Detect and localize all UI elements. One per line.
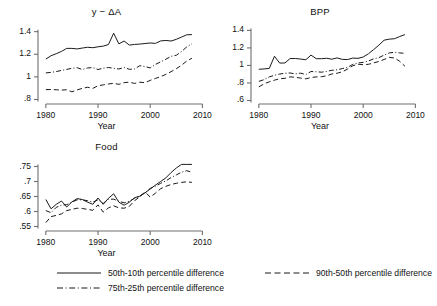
- y-tick-label: .7: [0, 176, 31, 186]
- legend-key-solid-icon: [56, 268, 102, 278]
- chart-panel-y-minus-delta-a: y − ΔA .811.21.41980199020002010Year: [0, 6, 213, 141]
- series-line: [46, 33, 192, 59]
- x-axis-title: Year: [0, 121, 213, 131]
- y-tick-label: 1.2: [0, 48, 31, 58]
- plot-area: .55.6.65.7.751980199020002010Year: [0, 141, 213, 266]
- y-tick-label: .6: [0, 206, 31, 216]
- x-axis-title: Year: [213, 121, 427, 131]
- chart-panel-bpp: BPP .6.811.21.41980199020002010Year: [213, 6, 427, 141]
- legend-label: 90th-50th percentile difference: [316, 268, 432, 278]
- x-tick-label: 1990: [289, 110, 333, 120]
- x-axis-title: Year: [0, 248, 213, 258]
- x-tick-label: 2000: [128, 237, 172, 247]
- chart-panel-food: Food .55.6.65.7.751980199020002010Year: [0, 141, 213, 266]
- y-tick-label: .8: [213, 77, 244, 87]
- legend-item-90th-50th: 90th-50th percentile difference: [264, 268, 432, 278]
- y-tick-label: 1: [213, 59, 244, 69]
- plot-area: .6.811.21.41980199020002010Year: [213, 6, 427, 141]
- x-tick-label: 1990: [76, 237, 120, 247]
- plot-area: .811.21.41980199020002010Year: [0, 6, 213, 141]
- legend-item-75th-25th: 75th-25th percentile difference: [56, 283, 224, 293]
- series-line: [46, 58, 192, 92]
- legend-key-dashdot-icon: [56, 283, 102, 293]
- y-tick-label: 1.4: [213, 24, 244, 34]
- series-line: [259, 52, 405, 81]
- y-tick-label: .6: [213, 94, 244, 104]
- chart-legend: 50th-10th percentile difference 90th-50t…: [0, 268, 427, 302]
- legend-label: 75th-25th percentile difference: [108, 283, 224, 293]
- x-tick-label: 2000: [128, 110, 172, 120]
- y-tick-label: .55: [0, 221, 31, 231]
- y-tick-label: 1.2: [213, 42, 244, 52]
- y-tick-label: 1: [0, 71, 31, 81]
- x-tick-label: 1990: [76, 110, 120, 120]
- y-tick-label: 1.4: [0, 26, 31, 36]
- x-tick-label: 2000: [341, 110, 385, 120]
- x-tick-label: 2010: [180, 237, 224, 247]
- y-tick-label: .8: [0, 93, 31, 103]
- legend-key-dashed-icon: [264, 268, 310, 278]
- x-tick-label: 2010: [393, 110, 437, 120]
- y-tick-label: .75: [0, 161, 31, 171]
- series-line: [46, 164, 192, 208]
- legend-item-50th-10th: 50th-10th percentile difference: [56, 268, 224, 278]
- y-tick-label: .65: [0, 191, 31, 201]
- x-tick-label: 1980: [24, 237, 68, 247]
- series-line: [259, 35, 405, 70]
- x-tick-label: 1980: [24, 110, 68, 120]
- legend-label: 50th-10th percentile difference: [108, 268, 224, 278]
- series-line: [259, 57, 405, 87]
- x-tick-label: 1980: [237, 110, 281, 120]
